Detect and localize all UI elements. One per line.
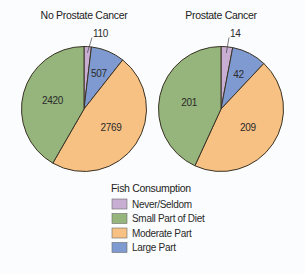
pie-prostate-cancer: Prostate Cancer 1442209201 — [158, 9, 283, 172]
pie-data-label: 209 — [240, 122, 257, 133]
legend-item-large-part: Large Part — [112, 242, 176, 253]
legend-item-never-seldom: Never/Seldom — [112, 199, 192, 210]
pie-data-label: 110 — [93, 28, 109, 39]
legend-item-small-part-of-diet: Small Part of Diet — [112, 213, 205, 224]
pie-no-prostate-cancer: No Prostate Cancer 11050727692420 — [21, 9, 146, 172]
pie-title-prostate-cancer: Prostate Cancer — [185, 9, 257, 21]
legend-title: Fish Consumption — [111, 182, 191, 194]
pie-data-label: 201 — [181, 97, 198, 108]
pie-data-label: 42 — [233, 69, 244, 80]
legend-item-moderate-part: Moderate Part — [112, 228, 192, 239]
legend-label: Large Part — [132, 242, 176, 253]
legend-swatch — [112, 214, 127, 224]
legend-label: Moderate Part — [132, 228, 192, 239]
legend-label: Small Part of Diet — [132, 213, 205, 224]
pie-chart-figure: No Prostate Cancer 11050727692420 Prosta… — [0, 0, 305, 274]
pie-data-label: 507 — [91, 68, 108, 79]
pie-data-label: 2769 — [100, 122, 122, 133]
legend-label: Never/Seldom — [132, 199, 192, 210]
legend-swatch — [112, 243, 127, 253]
pie-data-label: 2420 — [42, 95, 64, 106]
legend: Fish Consumption Never/SeldomSmall Part … — [111, 182, 205, 253]
legend-swatch — [112, 199, 127, 209]
legend-swatch — [112, 228, 127, 238]
pie-data-label: 14 — [230, 28, 241, 39]
pie-title-no-prostate-cancer: No Prostate Cancer — [41, 9, 129, 21]
